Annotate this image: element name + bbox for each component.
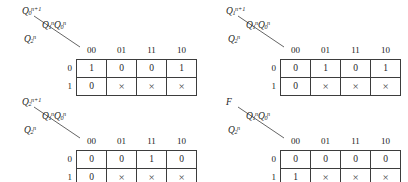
kmap-cell: 1: [137, 150, 167, 168]
kmap-column-header: 11: [341, 42, 371, 59]
kmap-column-variable-label: Q1nQ0n: [246, 111, 270, 122]
kmap-column-header: 11: [137, 42, 167, 59]
kmap-output-label: F: [226, 97, 231, 108]
kmap-column-header: 00: [281, 42, 311, 59]
kmap-column-header: 01: [311, 133, 341, 150]
kmap-row-header: 1: [52, 168, 77, 182]
kmap-table: 00 01 11 10 0 0 1 0 1 1 0 × × ×: [256, 42, 401, 96]
kmap-column-header: 00: [77, 42, 107, 59]
kmap-row: 0 0 1 0 1: [256, 59, 401, 77]
kmap-column-header-row: 00 01 11 10: [52, 133, 197, 150]
kmap-cell: 1: [167, 59, 197, 77]
kmap-row: 1 0 × × ×: [52, 168, 197, 182]
kmap-q1-next: Q1n+1 Q1nQ0n Q2n 00 01 11 10 0 0 1 0 1 1…: [204, 0, 408, 91]
kmap-cell: 0: [167, 150, 197, 168]
kmap-column-header: 10: [167, 42, 197, 59]
kmap-cell: 0: [341, 150, 371, 168]
kmap-q0-next: Q0n+1 Q1nQ0n Q2n 00 01 11 10 0 1 0 0 1 1…: [0, 0, 204, 91]
kmap-corner-spacer: [256, 133, 281, 150]
kmap-cell: 0: [311, 150, 341, 168]
kmap-cell-dontcare: ×: [107, 168, 137, 182]
kmap-figure: Q0n+1 Q1nQ0n Q2n 00 01 11 10 0 1 0 0 1 1…: [0, 0, 408, 182]
kmap-column-header: 01: [107, 42, 137, 59]
kmap-cell: 0: [341, 59, 371, 77]
kmap-table: 00 01 11 10 0 1 0 0 1 1 0 × × ×: [52, 42, 197, 96]
kmap-row: 0 0 0 0 0: [256, 150, 401, 168]
kmap-cell: 0: [137, 59, 167, 77]
kmap-row-header: 0: [52, 150, 77, 168]
kmap-column-header: 00: [77, 133, 107, 150]
kmap-row-header: 1: [256, 168, 281, 182]
kmap-q2-next: Q2n+1 Q1nQ0n Q2n 00 01 11 10 0 0 0 1 0 1…: [0, 91, 204, 182]
kmap-table: 00 01 11 10 0 0 0 0 0 1 1 × × ×: [256, 133, 401, 182]
kmap-row: 0 0 0 1 0: [52, 150, 197, 168]
kmap-row-variable-label: Q2n: [24, 125, 36, 136]
kmap-column-header: 11: [341, 133, 371, 150]
kmap-output-label: Q0n+1: [22, 6, 41, 17]
kmap-column-header: 10: [371, 42, 401, 59]
kmap-column-variable-label: Q1nQ0n: [42, 111, 66, 122]
kmap-column-header: 10: [167, 133, 197, 150]
kmap-row-header: 0: [256, 59, 281, 77]
kmap-cell: 1: [311, 59, 341, 77]
kmap-corner-spacer: [52, 42, 77, 59]
kmap-cell: 0: [77, 168, 107, 182]
kmap-cell: 0: [107, 150, 137, 168]
kmap-cell-dontcare: ×: [137, 168, 167, 182]
kmap-row-header: 0: [52, 59, 77, 77]
kmap-column-header: 01: [107, 133, 137, 150]
kmap-cell: 0: [77, 150, 107, 168]
kmap-output-label: Q1n+1: [226, 6, 245, 17]
kmap-row-variable-label: Q2n: [228, 34, 240, 45]
kmap-column-header: 01: [311, 42, 341, 59]
kmap-row: 1 1 × × ×: [256, 168, 401, 182]
kmap-column-variable-label: Q1nQ0n: [42, 20, 66, 31]
kmap-cell: 0: [371, 150, 401, 168]
kmap-cell-dontcare: ×: [341, 168, 371, 182]
kmap-table: 00 01 11 10 0 0 0 1 0 1 0 × × ×: [52, 133, 197, 182]
kmap-column-variable-label: Q1nQ0n: [246, 20, 270, 31]
kmap-cell-dontcare: ×: [311, 168, 341, 182]
kmap-cell: 1: [371, 59, 401, 77]
kmap-row-variable-label: Q2n: [24, 34, 36, 45]
kmap-row-header: 0: [256, 150, 281, 168]
kmap-column-header: 11: [137, 133, 167, 150]
kmap-corner-spacer: [256, 42, 281, 59]
kmap-f: F Q1nQ0n Q2n 00 01 11 10 0 0 0 0 0 1 1: [204, 91, 408, 182]
kmap-row: 0 1 0 0 1: [52, 59, 197, 77]
kmap-column-header-row: 00 01 11 10: [256, 133, 401, 150]
kmap-cell-dontcare: ×: [371, 168, 401, 182]
kmap-column-header: 10: [371, 133, 401, 150]
kmap-column-header-row: 00 01 11 10: [256, 42, 401, 59]
kmap-corner-spacer: [52, 133, 77, 150]
kmap-cell: 0: [107, 59, 137, 77]
kmap-column-header: 00: [281, 133, 311, 150]
kmap-cell: 1: [281, 168, 311, 182]
kmap-cell: 0: [281, 150, 311, 168]
kmap-column-header-row: 00 01 11 10: [52, 42, 197, 59]
kmap-cell-dontcare: ×: [167, 168, 197, 182]
kmap-output-label: Q2n+1: [22, 97, 41, 108]
kmap-row-variable-label: Q2n: [228, 125, 240, 136]
kmap-cell: 0: [281, 59, 311, 77]
kmap-cell: 1: [77, 59, 107, 77]
